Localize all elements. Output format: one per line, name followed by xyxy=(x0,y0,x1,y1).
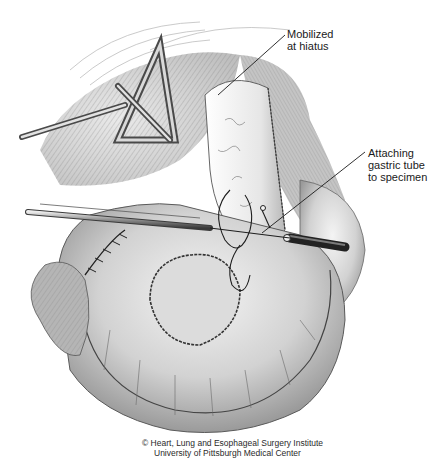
surgical-drawing xyxy=(0,0,439,467)
callout-line: Attaching xyxy=(368,147,427,159)
copyright-credit: © Heart, Lung and Esophageal Surgery Ins… xyxy=(142,439,323,458)
callout-line: Mobilized xyxy=(287,28,333,40)
callout-attaching-gastric-tube: Attaching gastric tube to specimen xyxy=(368,147,427,183)
callout-line: gastric tube xyxy=(368,159,427,171)
callout-line: to specimen xyxy=(368,171,427,183)
suture-knot xyxy=(261,206,266,211)
credit-university: University of Pittsburgh Medical Center xyxy=(142,449,323,459)
callout-mobilized-at-hiatus: Mobilized at hiatus xyxy=(287,28,333,52)
surgical-illustration-figure: Mobilized at hiatus Attaching gastric tu… xyxy=(0,0,439,467)
callout-line: at hiatus xyxy=(287,40,333,52)
